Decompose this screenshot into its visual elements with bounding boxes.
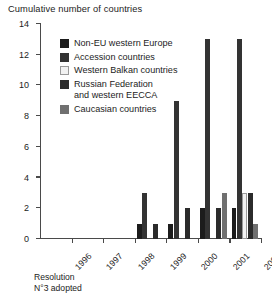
bar <box>137 224 142 239</box>
legend-item-label: Caucasian countries <box>74 104 156 116</box>
y-axis-tick <box>36 84 41 85</box>
legend-swatch-icon <box>60 53 69 62</box>
bar <box>168 224 173 239</box>
y-axis-tick <box>36 207 41 208</box>
legend-item[interactable]: Accession countries <box>60 52 177 64</box>
bar <box>222 193 227 239</box>
bar <box>153 224 158 239</box>
y-axis-tick <box>36 115 41 116</box>
legend-item[interactable]: Russian Federation and western EECCA <box>60 79 177 102</box>
x-axis-tick <box>166 238 167 243</box>
legend-item[interactable]: Caucasian countries <box>60 104 177 116</box>
chart-container: Cumulative number of countries 024681012… <box>0 0 272 304</box>
legend-swatch-icon <box>60 39 69 48</box>
y-axis-tick-label: 6 <box>24 142 29 152</box>
bar <box>248 193 253 239</box>
bar <box>174 101 179 239</box>
x-axis-tick-label: 2002 <box>262 251 272 272</box>
y-axis-tick-label: 2 <box>24 203 29 213</box>
bar <box>185 208 190 239</box>
x-axis-tick-label: 1997 <box>104 251 125 272</box>
legend-item[interactable]: Western Balkan countries <box>60 65 177 77</box>
x-axis-tick <box>72 238 73 243</box>
chart-title: Cumulative number of countries <box>8 4 142 14</box>
bar <box>237 39 242 239</box>
legend-item-label: Non-EU western Europe <box>74 38 173 50</box>
legend-item[interactable]: Non-EU western Europe <box>60 38 177 50</box>
bar <box>205 39 210 239</box>
y-axis-tick-label: 0 <box>24 234 29 244</box>
x-axis-tick <box>135 238 136 243</box>
x-axis-tick-label: 1998 <box>136 251 157 272</box>
x-axis-tick-label: 2001 <box>230 251 251 272</box>
y-axis-tick-label: 8 <box>24 111 29 121</box>
y-axis-tick <box>36 23 41 24</box>
legend-item-label: Western Balkan countries <box>74 65 177 77</box>
x-axis-tick <box>198 238 199 243</box>
y-axis-tick <box>36 146 41 147</box>
x-axis-tick-label: 1996 <box>73 251 94 272</box>
legend-item-label: Russian Federation and western EECCA <box>74 79 157 102</box>
y-axis-tick <box>36 238 41 239</box>
bar <box>142 193 147 239</box>
legend-item-label: Accession countries <box>74 52 155 64</box>
y-axis-tick-label: 4 <box>24 173 29 183</box>
bar <box>200 208 205 239</box>
chart-legend: Non-EU western EuropeAccession countries… <box>60 38 177 116</box>
bar <box>216 208 221 239</box>
bar <box>232 208 237 239</box>
x-axis-tick <box>103 238 104 243</box>
legend-swatch-icon <box>60 105 69 114</box>
x-axis <box>40 238 261 239</box>
x-axis-tick <box>229 238 230 243</box>
y-axis-tick-label: 10 <box>19 80 29 90</box>
resolution-annotation: Resolution N°3 adopted <box>34 272 82 294</box>
y-axis-tick-label: 12 <box>19 50 29 60</box>
y-axis-tick <box>36 54 41 55</box>
y-axis-tick-label: 14 <box>19 19 29 29</box>
y-axis-tick <box>36 176 41 177</box>
x-axis-tick-label: 1999 <box>167 251 188 272</box>
bar <box>253 224 258 239</box>
x-axis-tick-label: 2000 <box>199 251 220 272</box>
bar <box>242 193 247 239</box>
legend-swatch-icon <box>60 66 69 75</box>
x-axis-tick <box>261 238 262 243</box>
legend-swatch-icon <box>60 80 69 89</box>
